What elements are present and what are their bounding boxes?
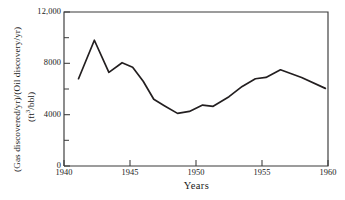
- plot-area: [0, 0, 345, 200]
- y-axis-ticks: [64, 12, 70, 166]
- axis-frame: [64, 12, 328, 166]
- figure-container: (Gas discovered/yr)/(Oil discovery/yr) (…: [0, 0, 345, 200]
- data-series-line: [79, 40, 326, 113]
- x-axis-ticks: [64, 160, 328, 166]
